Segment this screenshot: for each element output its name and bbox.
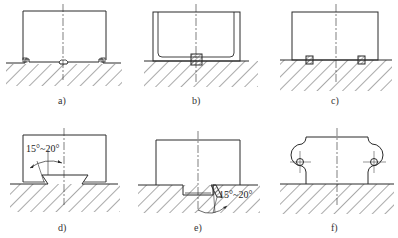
panel-e-label: e) — [194, 222, 202, 234]
right-insert — [358, 56, 365, 64]
square-insert — [191, 54, 202, 65]
panel-a — [6, 4, 122, 86]
panel-b — [144, 4, 258, 87]
panel-e — [138, 131, 260, 213]
panel-b-label: b) — [192, 95, 200, 107]
panel-f — [280, 128, 394, 214]
panel-d — [10, 128, 120, 212]
panel-d-angle-annotation: 15°~20° — [26, 143, 59, 154]
panel-c-label: c) — [331, 95, 339, 107]
panel-a-label: a) — [58, 95, 66, 107]
mechanical-fixture-diagram: a) b) c) 15°~20° d) — [0, 0, 398, 238]
base-hatch — [10, 184, 120, 212]
left-insert — [306, 56, 313, 64]
panel-e-angle-annotation: 15°~20° — [219, 189, 252, 200]
base-hatch — [6, 64, 122, 86]
panel-f-label: f) — [331, 222, 338, 234]
panel-c — [280, 4, 392, 91]
panel-d-label: d) — [58, 222, 66, 234]
